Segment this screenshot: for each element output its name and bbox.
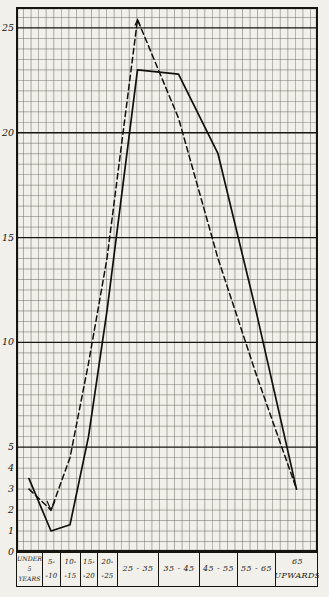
x-category-label: -10 [46, 573, 58, 580]
chart-canvas [16, 7, 318, 552]
x-category-label: 55 - 65 [241, 565, 272, 573]
x-axis-category-row: UNDER5YEARS5--1010--1515--2020--2525 - 3… [16, 552, 318, 587]
x-category-box-15-20: 15--20 [81, 553, 98, 586]
y-tick-label-15: 15 [0, 232, 14, 242]
x-category-label: -20 [83, 573, 95, 580]
x-category-label: UPWARDS [276, 572, 319, 580]
y-tick-label-20: 20 [0, 128, 14, 137]
x-category-box-10-15: 10--15 [61, 553, 81, 586]
graph-paper-chart: 25201510543210 UNDER5YEARS5--1010--1515-… [0, 0, 329, 597]
x-category-label: 15- [83, 559, 95, 566]
y-tick-label-25: 25 [0, 23, 14, 33]
x-category-box-55-65: 55 - 65 [238, 553, 276, 586]
x-category-box-under-5-years: UNDER5YEARS [17, 553, 43, 586]
y-tick-label-1: 1 [0, 526, 14, 536]
x-category-box-20-25: 20--25 [98, 553, 118, 586]
y-tick-label-10: 10 [0, 337, 14, 347]
x-category-label: 10- [65, 559, 77, 566]
x-category-label: 45 - 55 [203, 565, 234, 573]
x-category-label: 25 - 35 [123, 565, 154, 573]
x-category-label: 65 [292, 558, 303, 566]
y-tick-label-0: 0 [0, 547, 14, 557]
y-axis-tick-labels: 25201510543210 [0, 0, 15, 597]
x-category-box-65-upwards: 65UPWARDS [276, 553, 319, 586]
y-tick-label-2: 2 [0, 505, 14, 515]
x-category-label: 35 - 45 [164, 565, 195, 573]
x-category-label: 20- [102, 559, 114, 566]
x-category-box-5-10: 5--10 [43, 553, 61, 586]
y-tick-label-3: 3 [0, 484, 14, 494]
y-tick-label-5: 5 [0, 442, 14, 452]
x-category-label: 5- [48, 559, 55, 566]
x-category-label: 5 [28, 566, 32, 573]
x-category-box-25-35: 25 - 35 [118, 553, 159, 586]
x-category-label: -25 [102, 573, 114, 580]
x-category-label: YEARS [19, 576, 41, 583]
x-category-label: UNDER [17, 556, 42, 563]
x-category-box-35-45: 35 - 45 [159, 553, 200, 586]
x-category-label: -15 [65, 573, 77, 580]
y-tick-label-4: 4 [0, 463, 14, 473]
x-category-box-45-55: 45 - 55 [200, 553, 238, 586]
